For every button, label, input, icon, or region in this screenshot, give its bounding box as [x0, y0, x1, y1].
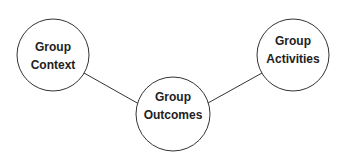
- edge-activities-outcomes: [208, 73, 262, 103]
- node-label-line2: Context: [31, 58, 76, 72]
- node-label-line1: Group: [35, 40, 71, 54]
- node-group-context: Group Context: [17, 19, 89, 91]
- node-group-outcomes: Group Outcomes: [136, 77, 210, 151]
- node-label-line2: Outcomes: [144, 108, 203, 122]
- diagram-canvas: Group Context Group Outcomes Group Activ…: [0, 0, 347, 159]
- node-group-activities: Group Activities: [257, 19, 329, 91]
- node-label-line1: Group: [275, 34, 311, 48]
- node-label-line2: Activities: [266, 52, 320, 66]
- node-label-line1: Group: [155, 90, 191, 104]
- edge-context-outcomes: [84, 73, 139, 104]
